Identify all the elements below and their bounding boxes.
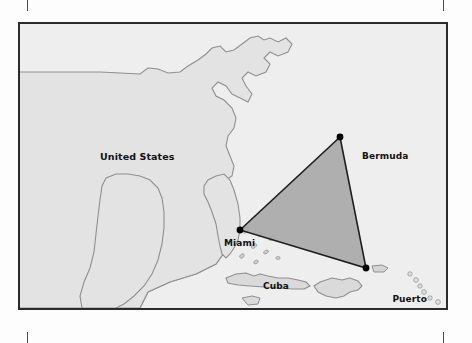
map-illustration <box>20 24 446 308</box>
crop-mark-bottom-right <box>443 332 444 343</box>
crop-mark-top-right <box>443 0 444 11</box>
vertex-marker-bermuda <box>337 134 344 141</box>
label-bermuda: Bermuda <box>362 152 408 161</box>
vertex-marker-puerto-rico <box>363 265 370 272</box>
label-cuba: Cuba <box>263 282 289 291</box>
label-miami: Miami <box>224 239 255 248</box>
label-united-states: United States <box>100 152 175 162</box>
page-canvas: United States Bermuda Miami Cuba Puerto … <box>0 0 472 343</box>
vertex-marker-miami <box>237 227 244 234</box>
crop-mark-top-left <box>27 0 28 11</box>
map-frame: United States Bermuda Miami Cuba Puerto … <box>18 22 448 310</box>
label-puerto-rico-line1: Puerto <box>392 294 427 304</box>
label-puerto-rico: Puerto Rico <box>373 286 427 310</box>
crop-mark-bottom-left <box>27 332 28 343</box>
